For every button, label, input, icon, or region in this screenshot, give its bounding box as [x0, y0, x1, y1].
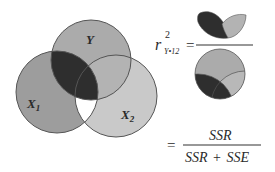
numerator-ssr: SSR [209, 128, 232, 143]
superscript-2: 2 [165, 29, 170, 40]
denominator-ssr: SSR [185, 150, 208, 165]
denominator: SSR + SSE [185, 150, 249, 165]
subscript-y-12: Y•12 [164, 47, 179, 56]
equals-sign-1: = [186, 37, 194, 53]
equals-sign-2: = [167, 137, 175, 153]
symbol-r: r [155, 36, 162, 53]
plus-sign: + [213, 150, 221, 165]
formula-r-squared: r 2 Y•12 = [155, 12, 275, 146]
formula-ssr-ratio: = SSR SSR + SSE [167, 128, 261, 165]
denominator-sse: SSE [226, 150, 249, 165]
label-y: Y [86, 32, 95, 47]
pictorial-numerator [198, 12, 246, 39]
venn-diagram: Y X1 X2 [16, 20, 157, 137]
venn-regression-diagram: Y X1 X2 r 2 Y•12 = [0, 0, 275, 172]
